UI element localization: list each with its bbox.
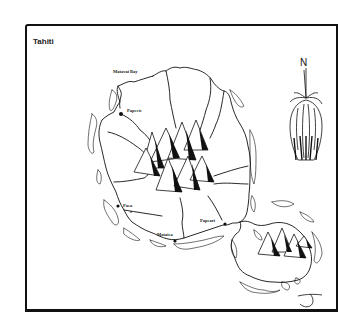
label-papeete: Papeete bbox=[127, 108, 142, 113]
label-papeari: Papeari bbox=[200, 218, 215, 223]
river bbox=[180, 198, 184, 238]
papeari-dot bbox=[223, 222, 226, 225]
reef bbox=[312, 232, 322, 263]
river bbox=[200, 78, 211, 130]
river bbox=[210, 91, 224, 138]
signature-mark bbox=[298, 294, 322, 307]
papeete-dot bbox=[119, 112, 123, 116]
reef bbox=[109, 90, 117, 111]
river bbox=[124, 210, 162, 216]
mountain-range-main bbox=[134, 120, 214, 192]
reef bbox=[174, 236, 224, 249]
reef bbox=[124, 228, 140, 241]
reef bbox=[250, 130, 256, 184]
reef bbox=[254, 230, 262, 240]
reef bbox=[88, 114, 97, 153]
reef bbox=[240, 282, 280, 293]
reef bbox=[150, 240, 166, 247]
river bbox=[214, 183, 248, 184]
label-matavai-bay: Matavai Bay bbox=[113, 69, 138, 74]
river bbox=[214, 166, 248, 176]
north-arrow-icon bbox=[290, 68, 322, 160]
reef bbox=[300, 212, 314, 222]
label-mataiea: Mataiea bbox=[157, 232, 173, 237]
label-paea: Paea bbox=[123, 203, 132, 208]
mountain-range-peninsula bbox=[258, 228, 312, 258]
reef bbox=[281, 282, 289, 290]
reef bbox=[251, 196, 256, 212]
reef bbox=[104, 200, 119, 225]
island-map bbox=[0, 0, 360, 335]
north-label: N bbox=[300, 57, 307, 68]
reef bbox=[97, 170, 102, 184]
paea-dot bbox=[116, 204, 119, 207]
mataiea-dot bbox=[173, 239, 176, 242]
river bbox=[166, 71, 176, 128]
river bbox=[208, 196, 222, 220]
reef bbox=[272, 201, 294, 207]
